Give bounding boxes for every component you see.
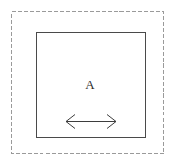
figure-svg: A bbox=[0, 0, 181, 166]
figure-canvas: A bbox=[0, 0, 181, 166]
region-label-a: A bbox=[85, 77, 95, 92]
